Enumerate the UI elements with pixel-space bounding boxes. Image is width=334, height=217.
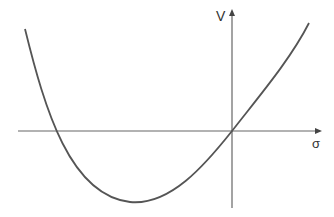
potential-curve xyxy=(25,23,309,202)
y-axis-label: V xyxy=(216,9,225,23)
x-axis-label: σ xyxy=(312,137,320,150)
x-axis-arrow-icon xyxy=(315,128,322,134)
y-axis-arrow-icon xyxy=(229,9,235,16)
plot-canvas xyxy=(0,0,334,217)
